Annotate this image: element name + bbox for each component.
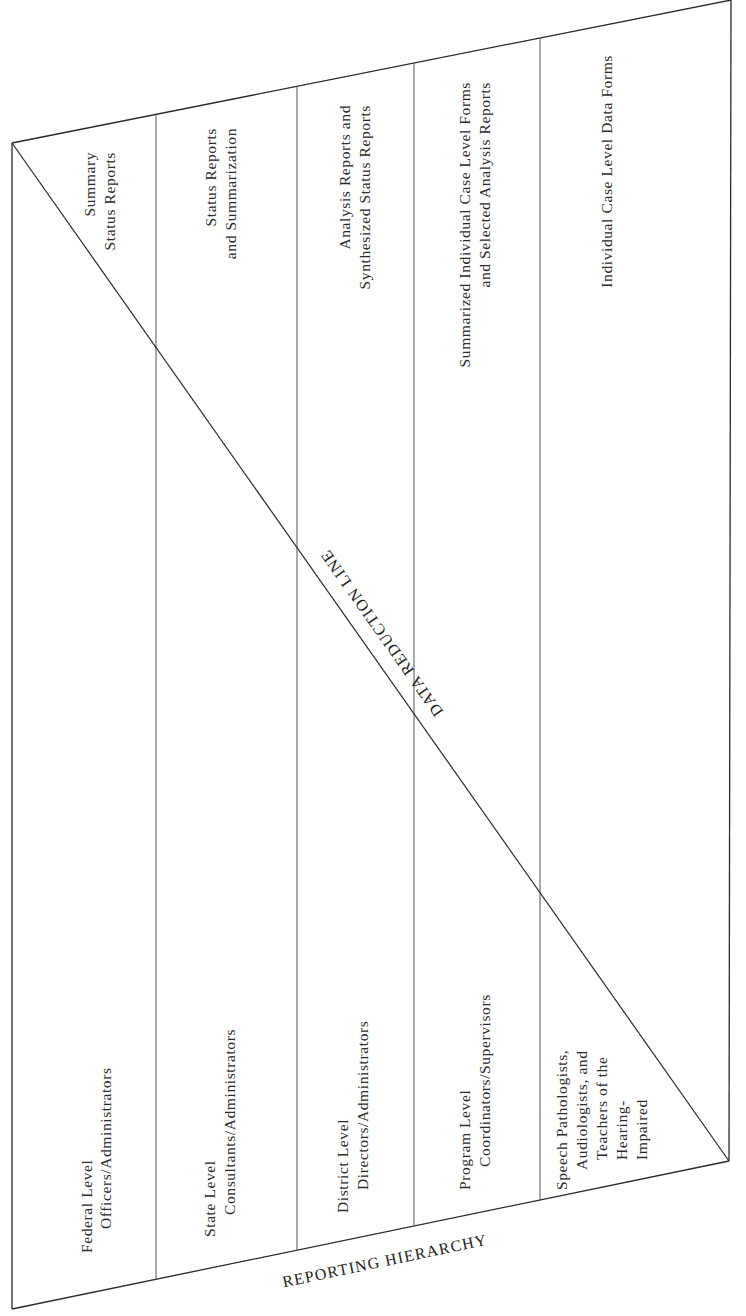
level-line: Hearing-	[613, 1100, 630, 1160]
column-district: District Level Directors/Administrators …	[334, 105, 373, 1213]
data-reduction-label: DATA REDUCTION LINE	[317, 546, 446, 719]
level-line: Directors/Administrators	[354, 1021, 371, 1190]
level-line: Program Level	[456, 1090, 473, 1190]
column-federal: Federal Level Officers/Administrators Su…	[78, 152, 118, 1253]
reporting-hierarchy-diagram: DATA REDUCTION LINE REPORTING HIERARCHY …	[0, 0, 746, 1316]
level-line: Officers/Administrators	[97, 1067, 114, 1229]
report-line: Summary	[81, 152, 98, 216]
level-line: Audiologists, and	[573, 1050, 590, 1170]
column-program: Program Level Coordinators/Supervisors S…	[456, 82, 493, 1190]
level-line: Speech Pathologists,	[553, 1050, 570, 1190]
report-line: and Selected Analysis Reports	[476, 82, 493, 288]
column-practitioners: Speech Pathologists, Audiologists, and T…	[553, 55, 650, 1190]
right-edge	[729, 0, 731, 1161]
level-line: Federal Level	[78, 1160, 95, 1253]
report-line: Individual Case Level Data Forms	[598, 55, 615, 288]
level-line: Teachers of the	[593, 1057, 610, 1160]
level-line: Coordinators/Supervisors	[476, 994, 493, 1167]
report-line: Analysis Reports and	[336, 105, 353, 250]
level-line: Consultants/Administrators	[221, 1029, 238, 1215]
report-line: and Summarization	[222, 128, 239, 259]
level-line: Impaired	[633, 1099, 650, 1160]
reporting-hierarchy-label: REPORTING HIERARCHY	[281, 1231, 489, 1290]
column-state: State Level Consultants/Administrators S…	[201, 128, 239, 1237]
data-reduction-line	[12, 143, 729, 1161]
level-line: State Level	[201, 1160, 218, 1237]
report-line: Status Reports	[202, 128, 219, 226]
report-line: Status Reports	[101, 152, 118, 250]
report-line: Synthesized Status Reports	[356, 105, 373, 289]
report-line: Summarized Individual Case Level Forms	[456, 82, 473, 367]
level-line: District Level	[334, 1119, 351, 1213]
